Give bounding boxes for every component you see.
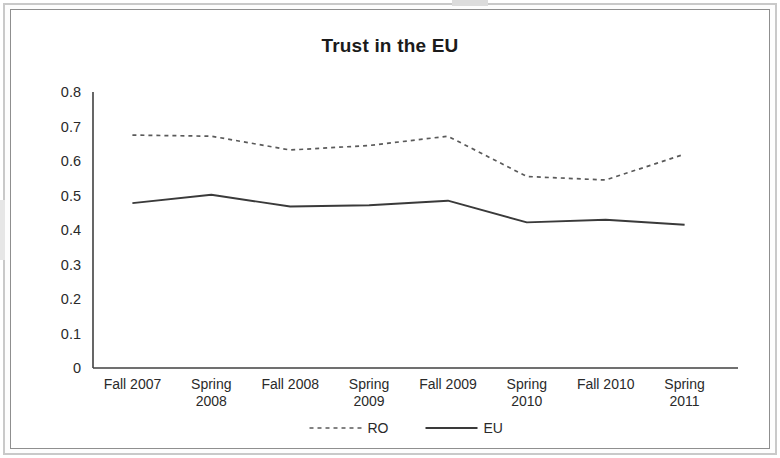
- y-axis-tick-label: 0: [73, 360, 81, 376]
- y-axis-tick-label: 0.7: [61, 119, 81, 135]
- series-line-ro: [132, 135, 684, 180]
- x-axis-tick-label: Spring: [507, 376, 547, 392]
- x-axis-tick-label: 2010: [511, 393, 542, 409]
- x-axis-tick-label: Spring: [349, 376, 389, 392]
- x-axis-tick-label: Fall 2009: [419, 376, 477, 392]
- chart-container: Trust in the EU 0.80.70.60.50.40.30.20.1…: [10, 9, 770, 449]
- x-axis-tick-label: Spring: [191, 376, 231, 392]
- x-axis-tick-label: 2009: [353, 393, 384, 409]
- y-axis-tick-label: 0.4: [61, 222, 81, 238]
- line-chart-plot: 0.80.70.60.50.40.30.20.10 Fall 2007Sprin…: [10, 9, 770, 449]
- x-axis-tick-label: Fall 2007: [104, 376, 162, 392]
- scan-artifact-top: [452, 0, 488, 6]
- data-series-group: [132, 135, 684, 225]
- y-axis-tick-label: 0.5: [61, 188, 81, 204]
- legend-label-eu: EU: [484, 420, 503, 436]
- y-axis-tick-labels: 0.80.70.60.50.40.30.20.10: [61, 84, 81, 376]
- y-axis-tick-label: 0.2: [61, 291, 81, 307]
- scan-artifact-left: [0, 200, 5, 260]
- chart-axes: [93, 92, 738, 368]
- chart-legend: ROEU: [310, 420, 503, 436]
- y-axis-tick-label: 0.6: [61, 153, 81, 169]
- x-axis-tick-label: Spring: [664, 376, 704, 392]
- y-axis-tick-label: 0.3: [61, 257, 81, 273]
- scanned-page: Trust in the EU 0.80.70.60.50.40.30.20.1…: [0, 0, 780, 458]
- y-axis-tick-label: 0.8: [61, 84, 81, 100]
- x-axis-tick-label: 2011: [670, 393, 700, 409]
- x-axis-tick-label: 2008: [196, 393, 227, 409]
- x-axis-tick-labels: Fall 2007Spring2008Fall 2008Spring2009Fa…: [104, 376, 705, 409]
- series-line-eu: [132, 195, 684, 225]
- x-axis-tick-label: Fall 2008: [261, 376, 319, 392]
- legend-label-ro: RO: [368, 420, 389, 436]
- y-axis-tick-label: 0.1: [61, 326, 81, 342]
- x-axis-tick-label: Fall 2010: [577, 376, 635, 392]
